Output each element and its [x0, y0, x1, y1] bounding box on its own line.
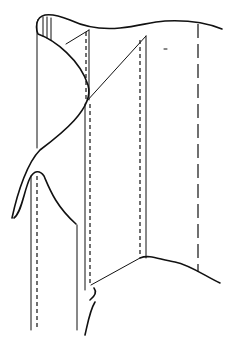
- bottom-wavy-edge: [85, 257, 220, 335]
- line-drawing: [0, 0, 234, 346]
- left-curl: [12, 20, 89, 218]
- bottom-curl-fragment: [90, 288, 95, 300]
- diagonal-fold-bottom: [91, 258, 140, 285]
- figure-canvas: [0, 0, 234, 346]
- top-wavy-edge: [38, 15, 222, 29]
- diagonal-fold-top: [86, 36, 146, 102]
